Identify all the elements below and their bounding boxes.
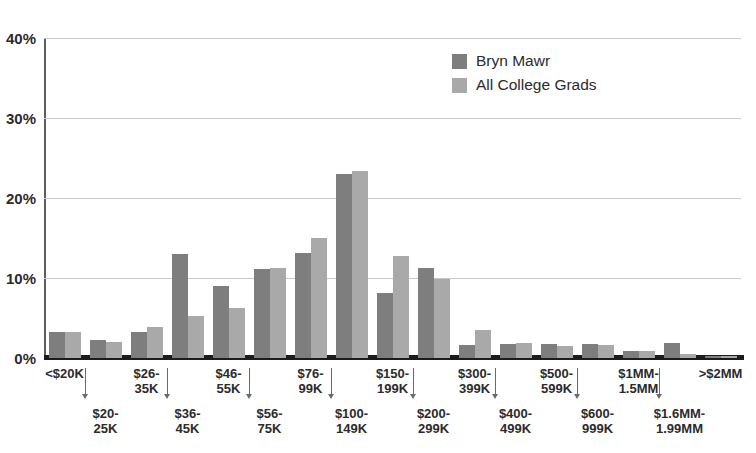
down-arrow-icon [652,368,666,399]
down-arrow-icon [570,368,584,399]
bar [254,269,270,358]
x-axis-label-line: 1.99MM [647,421,713,436]
x-axis-label-line: 25K [73,421,139,436]
x-axis-label-line: $100- [319,406,385,421]
bar-group [249,38,290,358]
x-axis-label-line: $1.6MM- [647,406,713,421]
down-arrow-icon [242,368,256,399]
bar [721,356,737,358]
x-axis-category-label: $600-999K [565,406,631,436]
bar [705,356,721,358]
x-axis-category-label: $100-149K [319,406,385,436]
bar-group [208,38,249,358]
bar [557,346,573,358]
x-axis-label-line: 149K [319,421,385,436]
x-axis-label-line: $600- [565,406,631,421]
x-axis-category-label: >$2MM [688,366,754,381]
bar-group [126,38,167,358]
bar [352,171,368,358]
x-axis-category-labels: <$20K$20-25K$26-35K$36-45K$46-55K$56-75K… [44,362,741,453]
down-arrow-icon [488,368,502,399]
bar [172,254,188,358]
y-axis-tick-label: 30% [6,110,36,127]
x-axis-category-label: $400-499K [483,406,549,436]
bar [475,330,491,358]
bar [147,327,163,358]
bar [213,286,229,358]
bar-groups [44,38,741,358]
bar [377,293,393,358]
bar-group [167,38,208,358]
bar [131,332,147,358]
bar [598,345,614,358]
bar-group [44,38,85,358]
chart-legend: Bryn Mawr All College Grads [452,52,597,94]
bar-group [372,38,413,358]
bar [680,354,696,358]
x-axis-label-line: >$2MM [688,366,754,381]
x-axis-label-line: $20- [73,406,139,421]
bar-group [659,38,700,358]
x-axis-category-label: $1.6MM-1.99MM [647,406,713,436]
legend-swatch-icon [452,78,467,93]
y-axis-tick-label: 10% [6,270,36,287]
x-axis-label-line: 499K [483,421,549,436]
bar-group [85,38,126,358]
legend-swatch-icon [452,54,467,69]
bar [623,351,639,358]
bar [49,332,65,358]
bar-group [700,38,741,358]
bar-group [290,38,331,358]
bar [90,340,106,358]
x-axis-label-line: $56- [237,406,303,421]
bar [664,343,680,358]
x-axis-label-line: 75K [237,421,303,436]
legend-item-all-college-grads: All College Grads [452,76,597,94]
bar [516,343,532,358]
bar-group [618,38,659,358]
x-axis-label-line: $400- [483,406,549,421]
bar [270,268,286,358]
down-arrow-icon [406,368,420,399]
bar [434,279,450,358]
bar [418,268,434,358]
y-axis-tick-label: 40% [6,30,36,47]
bar [65,332,81,358]
x-axis-label-line: 299K [401,421,467,436]
bar [541,344,557,358]
bar-group [413,38,454,358]
bar [459,345,475,358]
down-arrow-icon [160,368,174,399]
x-axis-label-line: $36- [155,406,221,421]
plot-area: 0%10%20%30%40% [44,38,741,358]
bar [188,316,204,358]
legend-label: Bryn Mawr [476,52,550,70]
y-axis-tick-label: 0% [14,350,36,367]
bar [106,342,122,358]
bar [229,308,245,358]
down-arrow-icon [324,368,338,399]
x-axis-category-label: $20-25K [73,406,139,436]
bar [393,256,409,358]
bar [582,344,598,358]
y-axis-tick-label: 20% [6,190,36,207]
x-axis-label-line: 999K [565,421,631,436]
income-distribution-bar-chart: 0%10%20%30%40% Bryn Mawr All College Gra… [0,0,756,453]
x-axis-category-label: $200-299K [401,406,467,436]
legend-item-bryn-mawr: Bryn Mawr [452,52,597,70]
bar-group [331,38,372,358]
x-axis-category-label: $56-75K [237,406,303,436]
bar [295,253,311,358]
bar [311,238,327,358]
legend-label: All College Grads [476,76,597,94]
bar [639,351,655,358]
x-axis-category-label: $36-45K [155,406,221,436]
down-arrow-icon [78,368,92,399]
x-axis-label-line: $200- [401,406,467,421]
bar [500,344,516,358]
x-axis-label-line: 45K [155,421,221,436]
bar [336,174,352,358]
